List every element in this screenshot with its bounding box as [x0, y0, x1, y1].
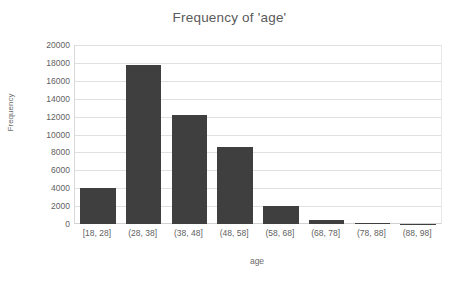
x-axis-tick-label: (28, 38]: [120, 228, 166, 238]
chart-title: Frequency of 'age': [0, 10, 459, 25]
bar-slot: [350, 45, 396, 224]
x-axis-tick-label: (88, 98]: [394, 228, 440, 238]
bar[interactable]: [263, 206, 299, 224]
x-axis-tick-label: [18, 28]: [74, 228, 120, 238]
y-axis-tick-label: 4000: [51, 183, 70, 193]
bar-series: [75, 45, 441, 224]
x-axis-title: age: [74, 256, 440, 266]
y-axis-tick-label: 8000: [51, 147, 70, 157]
bar-slot: [121, 45, 167, 224]
x-axis-tick-labels: [18, 28](28, 38](38, 48](48, 58](58, 68]…: [74, 228, 440, 244]
bar-slot: [258, 45, 304, 224]
bar[interactable]: [309, 220, 345, 224]
bar[interactable]: [172, 115, 208, 224]
y-axis-tick-label: 0: [65, 219, 70, 229]
bar[interactable]: [217, 147, 253, 224]
y-axis-tick-label: 10000: [46, 130, 70, 140]
bar-slot: [212, 45, 258, 224]
bar-slot: [395, 45, 441, 224]
chart-container: Frequency of 'age' Frequency 02000400060…: [0, 0, 459, 283]
y-axis-tick-label: 6000: [51, 165, 70, 175]
bar[interactable]: [80, 188, 116, 224]
y-axis-tick-label: 2000: [51, 201, 70, 211]
y-axis-tick-label: 14000: [46, 94, 70, 104]
y-axis-title: Frequency: [6, 78, 15, 148]
x-axis-tick-label: (78, 88]: [349, 228, 395, 238]
x-axis-tick-label: (48, 58]: [211, 228, 257, 238]
x-axis-tick-label: (58, 68]: [257, 228, 303, 238]
bar[interactable]: [126, 65, 162, 224]
y-axis-tick-label: 12000: [46, 112, 70, 122]
y-axis-tick-label: 20000: [46, 40, 70, 50]
y-axis-tick-label: 18000: [46, 58, 70, 68]
bar-slot: [167, 45, 213, 224]
bar[interactable]: [355, 223, 391, 224]
plot-area: 0200040006000800010000120001400016000180…: [74, 45, 442, 224]
y-axis-tick-label: 16000: [46, 76, 70, 86]
bar-slot: [75, 45, 121, 224]
bar-slot: [304, 45, 350, 224]
x-axis-tick-label: (38, 48]: [166, 228, 212, 238]
x-axis-tick-label: (68, 78]: [303, 228, 349, 238]
